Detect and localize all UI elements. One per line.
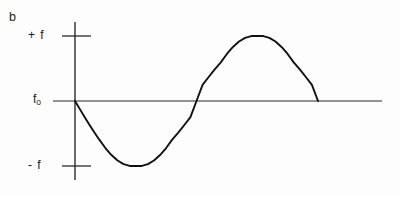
panel-letter-label: b: [9, 11, 16, 24]
figure-panel-b: b + f fo - f: [0, 0, 400, 197]
f-zero-subscript: o: [36, 97, 41, 107]
y-axis-label-plus-f: + f: [28, 29, 45, 41]
y-axis-label-minus-f: - f: [28, 159, 42, 171]
plot-area: [0, 0, 400, 197]
y-axis-label-f-zero: fo: [33, 93, 41, 107]
